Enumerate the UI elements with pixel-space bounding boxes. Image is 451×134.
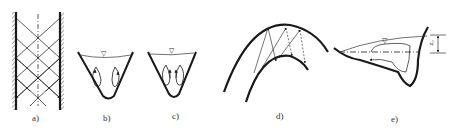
- panel-c-cross-section: ▽: [148, 47, 196, 97]
- panel-label-e: e): [391, 114, 398, 124]
- panel-d-bend: [224, 25, 328, 102]
- panel-label-b: b): [103, 113, 111, 123]
- panel-label-d: d): [276, 111, 284, 121]
- diagram-canvas: ▽ ▽ ▽: [0, 0, 451, 134]
- panel-label-c: c): [172, 111, 179, 121]
- dimension-label: z₀: [427, 40, 435, 45]
- panel-a-channel: [12, 12, 64, 110]
- panel-label-a: a): [32, 113, 39, 123]
- water-surface-icon: ▽: [169, 47, 175, 55]
- panel-b-cross-section: ▽: [78, 50, 133, 99]
- water-surface-icon: ▽: [101, 50, 107, 58]
- panel-e-bend-section: ▽: [334, 27, 446, 86]
